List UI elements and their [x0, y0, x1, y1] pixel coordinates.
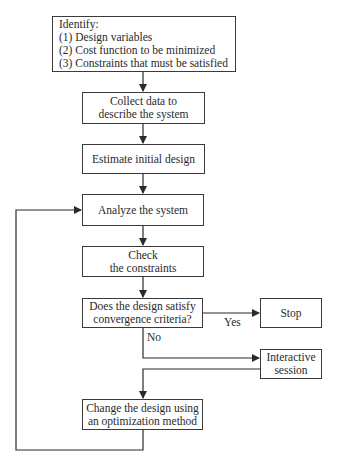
decision-line-1: Does the design satisfy	[89, 300, 195, 313]
collect-data-box: Collect data to describe the system	[82, 92, 205, 124]
collect-line-2: describe the system	[98, 108, 188, 121]
change-design-box: Change the design using an optimization …	[82, 399, 203, 430]
collect-line-1: Collect data to	[110, 95, 177, 108]
convergence-decision-box: Does the design satisfy convergence crit…	[82, 298, 203, 328]
analyze-line-1: Analyze the system	[98, 204, 188, 217]
interactive-session-box: Interactive session	[260, 349, 322, 379]
interactive-line-2: session	[274, 364, 307, 377]
check-constraints-box: Check the constraints	[82, 246, 204, 277]
estimate-line-1: Estimate initial design	[92, 153, 195, 166]
check-line-1: Check	[128, 249, 157, 262]
identify-item-1: (1) Design variables	[59, 31, 152, 44]
stop-line-1: Stop	[280, 307, 301, 320]
change-line-2: an optimization method	[88, 415, 197, 428]
identify-box: Identify: (1) Design variables (2) Cost …	[52, 16, 236, 72]
identify-item-3: (3) Constraints that must be satisfied	[59, 57, 228, 70]
identify-title: Identify:	[59, 18, 99, 31]
yes-label: Yes	[224, 316, 241, 328]
interactive-line-1: Interactive	[266, 351, 315, 364]
change-line-1: Change the design using	[86, 402, 199, 415]
stop-box: Stop	[260, 298, 322, 328]
estimate-design-box: Estimate initial design	[82, 144, 205, 174]
decision-line-2: convergence criteria?	[93, 313, 191, 326]
analyze-system-box: Analyze the system	[82, 194, 204, 226]
check-line-2: the constraints	[110, 262, 177, 275]
identify-item-2: (2) Cost function to be minimized	[59, 44, 215, 57]
no-label: No	[147, 331, 161, 343]
